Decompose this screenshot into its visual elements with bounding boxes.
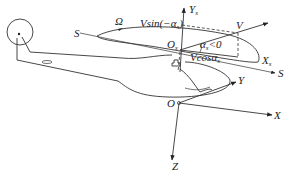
xs-label: Xs (261, 54, 272, 68)
x-label: X (273, 109, 282, 121)
s-left-label: S (74, 27, 80, 39)
z-axis (172, 103, 179, 160)
shaft-axis-line (80, 33, 275, 73)
y-axis (179, 82, 236, 103)
z-label: Z (172, 160, 179, 172)
omega-arrow-icon (118, 28, 123, 31)
vcos-label: Vcosαs (190, 51, 220, 65)
fuselage-window (42, 61, 52, 64)
rotor-hub (172, 60, 180, 66)
tail-rotor-hub (18, 33, 20, 35)
y-label: Y (238, 74, 246, 86)
tail-rotor-circle (7, 19, 33, 45)
v-label: V (236, 19, 244, 31)
o-label: O (167, 97, 175, 109)
x-axis (179, 103, 272, 115)
os-label: Os (167, 38, 178, 52)
omega-label: Ω (115, 15, 123, 27)
alpha-label: αs<0 (200, 38, 222, 52)
ys-label: Ys (189, 3, 198, 17)
v-vector (180, 23, 268, 50)
vsin-label: Vsin(−αs) (140, 17, 183, 31)
s-right-label: S (278, 67, 284, 79)
helicopter-coordinate-diagram: Ω S S Vsin(−αs) V Ys Os αs<0 Vcosαs Xs O… (0, 0, 287, 176)
